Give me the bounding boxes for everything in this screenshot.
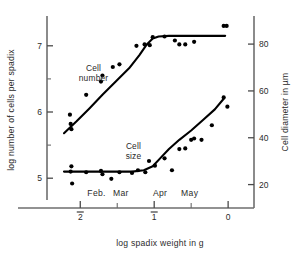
series-label: size (126, 151, 142, 161)
data-point (192, 136, 196, 140)
data-point (173, 38, 177, 42)
ticks-group (47, 44, 254, 208)
month-label: Apr (153, 188, 167, 198)
data-point (117, 62, 121, 66)
data-point (225, 105, 229, 109)
x-tick-label: 0 (226, 212, 231, 222)
data-point (134, 44, 138, 48)
y2-tick-label: 60 (259, 86, 269, 96)
month-label: Mar (113, 188, 129, 198)
data-point (177, 42, 181, 46)
data-point (162, 156, 166, 160)
data-point (162, 34, 166, 38)
data-point (192, 40, 196, 44)
data-point (153, 164, 157, 168)
data-point (69, 169, 73, 173)
series-labels-group: CellnumberCellsize (79, 63, 142, 161)
series-label: Cell (86, 63, 101, 73)
y2-tick-label: 80 (259, 39, 269, 49)
series-label: Cell (126, 141, 141, 151)
y-tick-label: 7 (37, 41, 42, 51)
y2-tick-label: 40 (259, 133, 269, 143)
data-point (143, 170, 147, 174)
month-label: May (181, 188, 199, 198)
y2-axis-title: Cell diameter in µm (280, 73, 290, 152)
data-point (210, 123, 214, 127)
data-point (69, 122, 73, 126)
data-point (177, 147, 181, 151)
y-tick-label: 6 (37, 107, 42, 117)
data-point (84, 93, 88, 97)
data-point (199, 138, 203, 142)
data-point (170, 168, 174, 172)
data-point (222, 95, 226, 99)
data-point (148, 43, 152, 47)
y-tick-label: 5 (37, 173, 42, 183)
y-axis-title: log number of cells per spadix (6, 49, 16, 171)
data-point (142, 42, 146, 46)
data-point (70, 181, 74, 185)
fit-curves-group (64, 36, 225, 172)
series-label: number (79, 73, 109, 83)
month-label: Feb. (87, 188, 105, 198)
data-point (117, 170, 121, 174)
data-point (147, 159, 151, 163)
data-point (84, 170, 88, 174)
data-point (151, 35, 155, 39)
data-point (100, 172, 104, 176)
scatter-plot: 56720406080210 Feb.MarAprMay CellnumberC… (0, 0, 300, 254)
data-point (109, 177, 113, 181)
fit-curve-1 (64, 36, 225, 133)
data-point (183, 42, 187, 46)
x-axis-title: log spadix weight in g (116, 238, 204, 248)
data-point (130, 171, 134, 175)
data-point (183, 146, 187, 150)
x-tick-label: 1 (152, 212, 157, 222)
data-point (68, 113, 72, 117)
data-point (69, 164, 73, 168)
data-point (111, 65, 115, 69)
figure-container: 56720406080210 Feb.MarAprMay CellnumberC… (0, 0, 300, 254)
data-point (136, 168, 140, 172)
month-annotations-group: Feb.MarAprMay (87, 188, 198, 198)
data-point (225, 24, 229, 28)
data-point (69, 127, 73, 131)
x-tick-label: 2 (78, 212, 83, 222)
y2-tick-label: 20 (259, 180, 269, 190)
